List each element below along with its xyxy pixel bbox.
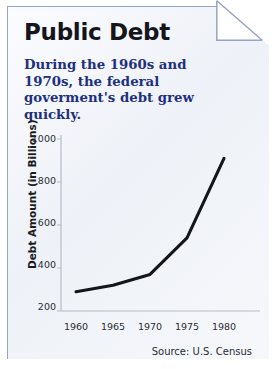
line-chart-plot xyxy=(8,125,270,340)
card-subtitle: During the 1960s and 1970s, the federal … xyxy=(24,57,239,123)
x-tick-label: 1980 xyxy=(204,321,244,332)
public-debt-card: Public Debt During the 1960s and 1970s, … xyxy=(7,6,271,361)
x-tick-label: 1970 xyxy=(130,321,170,332)
source-caption: Source: U.S. Census xyxy=(152,346,252,357)
x-axis-ticks: 1960 1965 1970 1975 1980 xyxy=(8,321,270,337)
x-tick-label: 1975 xyxy=(167,321,207,332)
page-title: Public Debt xyxy=(24,19,170,45)
x-tick-label: 1965 xyxy=(93,321,133,332)
x-tick-label: 1960 xyxy=(56,321,96,332)
debt-trend-line xyxy=(76,158,224,291)
chart-area: Debt Amount (in Billions) 1000 800 600 4… xyxy=(8,125,270,340)
